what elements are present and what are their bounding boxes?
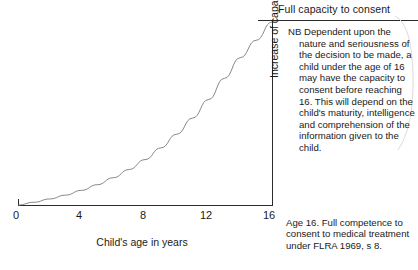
x-axis-origin-tick (18, 199, 19, 206)
diagram-canvas: Full capacity to consent 0 4 8 12 16 Chi… (0, 0, 418, 270)
age-16-footnote: Age 16. Full competence to consent to me… (286, 217, 414, 251)
x-tick-label-8: 8 (132, 209, 154, 221)
x-tick-label-12: 12 (195, 209, 217, 221)
x-tick-label-4: 4 (68, 209, 90, 221)
x-axis-title: Child's age in years (62, 236, 222, 248)
full-capacity-rule (258, 20, 418, 21)
x-axis-line (18, 205, 273, 206)
full-capacity-label: Full capacity to consent (278, 3, 390, 15)
y-axis-title: Increase of capacity to consent (268, 0, 280, 78)
nb-note: NB Dependent upon the nature and serious… (288, 26, 417, 154)
x-tick-label-0: 0 (5, 209, 27, 221)
x-tick-label-16: 16 (258, 209, 280, 221)
